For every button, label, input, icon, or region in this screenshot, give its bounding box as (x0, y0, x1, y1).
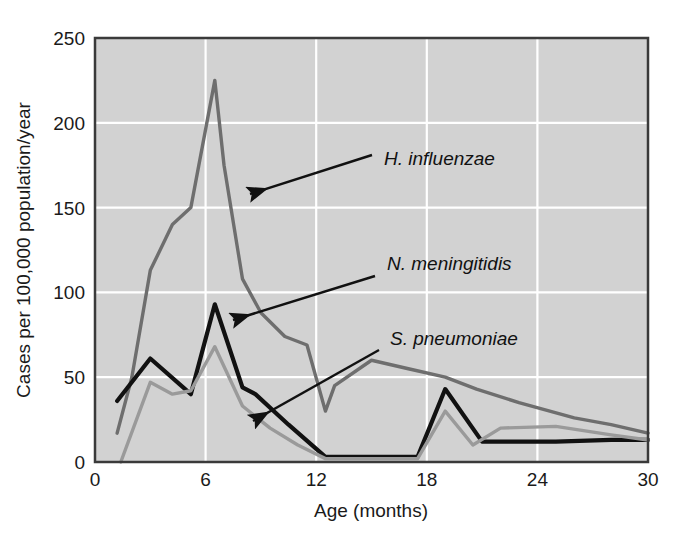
x-axis-title: Age (months) (314, 500, 428, 521)
chart-figure: 0612182430 050100150200250 H. influenzae… (0, 0, 679, 539)
x-tick-label: 24 (527, 469, 549, 490)
line-chart: 0612182430 050100150200250 H. influenzae… (0, 0, 679, 539)
annotation-label-h-influenzae: H. influenzae (384, 148, 495, 169)
plot-background (95, 38, 648, 462)
y-tick-label: 250 (53, 28, 85, 49)
x-tick-label: 18 (416, 469, 437, 490)
y-tick-label: 0 (74, 452, 85, 473)
x-axis-tick-labels: 0612182430 (90, 469, 659, 490)
y-tick-label: 150 (53, 198, 85, 219)
x-tick-label: 30 (637, 469, 658, 490)
y-tick-label: 100 (53, 282, 85, 303)
y-tick-label: 200 (53, 113, 85, 134)
x-tick-label: 6 (200, 469, 211, 490)
y-axis-title: Cases per 100,000 population/year (13, 101, 34, 397)
plot-background-group (95, 38, 648, 462)
annotation-label-n-meningitidis: N. meningitidis (387, 253, 512, 274)
y-axis-tick-labels: 050100150200250 (53, 28, 85, 473)
annotation-label-s-pneumoniae: S. pneumoniae (390, 328, 518, 349)
y-tick-label: 50 (64, 367, 85, 388)
x-tick-label: 0 (90, 469, 101, 490)
x-tick-label: 12 (306, 469, 327, 490)
